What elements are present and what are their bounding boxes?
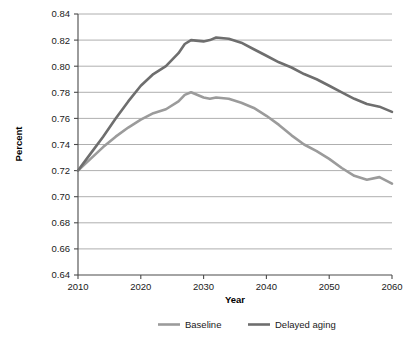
y-tick-label: 0.70: [52, 191, 71, 202]
legend-label: Delayed aging: [275, 319, 336, 330]
y-tick-label: 0.64: [52, 269, 71, 280]
x-tick-label: 2010: [67, 281, 88, 292]
chart-legend: BaselineDelayed aging: [158, 319, 336, 330]
x-axis-ticks: 201020202030204020502060: [67, 275, 402, 292]
y-tick-label: 0.82: [52, 35, 71, 46]
x-tick-label: 2040: [256, 281, 277, 292]
y-tick-label: 0.66: [52, 243, 71, 254]
x-tick-label: 2060: [381, 281, 402, 292]
x-tick-label: 2030: [193, 281, 214, 292]
legend-label: Baseline: [185, 319, 221, 330]
line-chart: 0.640.660.680.700.720.740.760.780.800.82…: [0, 0, 412, 345]
y-tick-label: 0.68: [52, 217, 71, 228]
chart-figure: 0.640.660.680.700.720.740.760.780.800.82…: [0, 0, 412, 345]
y-tick-label: 0.74: [52, 139, 71, 150]
y-tick-label: 0.72: [52, 165, 71, 176]
x-tick-label: 2050: [319, 281, 340, 292]
y-axis-title: Percent: [13, 126, 24, 162]
y-tick-label: 0.76: [52, 113, 71, 124]
y-tick-label: 0.84: [52, 8, 71, 19]
y-tick-label: 0.78: [52, 87, 71, 98]
x-tick-label: 2020: [130, 281, 151, 292]
x-axis-title: Year: [225, 294, 245, 305]
y-axis-ticks: 0.640.660.680.700.720.740.760.780.800.82…: [52, 8, 79, 280]
y-tick-label: 0.80: [52, 61, 71, 72]
